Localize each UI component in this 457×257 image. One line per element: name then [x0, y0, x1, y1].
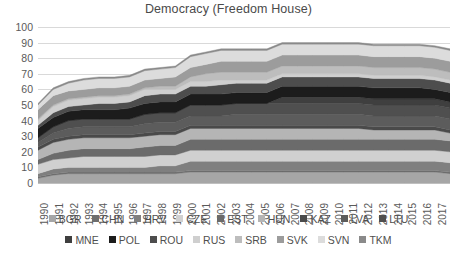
legend-item-rou[interactable]: ROU — [150, 234, 183, 246]
chart-legend: BGRCHNHRVCZEESTHUNKAZLVALTUMNEPOLROURUSS… — [0, 208, 457, 250]
legend-swatch-rou-icon — [150, 236, 157, 243]
stacked-area-series — [38, 27, 450, 183]
legend-label: HRV — [144, 213, 166, 225]
plot-area — [38, 27, 450, 183]
legend-swatch-rus-icon — [193, 236, 200, 243]
legend-label: SVK — [287, 234, 308, 246]
legend-item-hrv[interactable]: HRV — [134, 213, 166, 225]
legend-swatch-chn-icon — [92, 215, 99, 222]
legend-label: POL — [119, 234, 140, 246]
y-tick-label: 70 — [21, 69, 33, 79]
y-tick-label: 100 — [15, 22, 33, 32]
legend-item-pol[interactable]: POL — [109, 234, 140, 246]
legend-label: ROU — [160, 234, 183, 246]
legend-label: MNE — [75, 234, 98, 246]
legend-swatch-cze-icon — [176, 215, 183, 222]
legend-item-srb[interactable]: SRB — [235, 234, 267, 246]
legend-item-mne[interactable]: MNE — [65, 234, 98, 246]
legend-item-rus[interactable]: RUS — [193, 234, 225, 246]
legend-swatch-lva-icon — [341, 215, 348, 222]
legend-item-svn[interactable]: SVN — [318, 234, 350, 246]
legend-label: LVA — [351, 213, 369, 225]
y-tick-label: 40 — [21, 116, 33, 126]
legend-label: SVN — [328, 234, 350, 246]
legend-swatch-kaz-icon — [300, 215, 307, 222]
legend-item-lva[interactable]: LVA — [341, 213, 369, 225]
legend-label: HUN — [268, 213, 291, 225]
legend-label: KAZ — [310, 213, 330, 225]
legend-swatch-svk-icon — [277, 236, 284, 243]
legend-item-cze[interactable]: CZE — [176, 213, 207, 225]
y-tick-label: 10 — [21, 162, 33, 172]
legend-item-ltu[interactable]: LTU — [379, 213, 408, 225]
legend-swatch-hun-icon — [258, 215, 265, 222]
legend-swatch-pol-icon — [109, 236, 116, 243]
legend-swatch-hrv-icon — [134, 215, 141, 222]
legend-label: CZE — [186, 213, 207, 225]
legend-item-bgr[interactable]: BGR — [49, 213, 82, 225]
y-tick-label: 90 — [21, 38, 33, 48]
y-axis: 0102030405060708090100 — [0, 27, 33, 183]
legend-label: RUS — [203, 234, 225, 246]
chart-title: Democracy (Freedom House) — [0, 2, 457, 16]
legend-label: SRB — [245, 234, 267, 246]
legend-item-chn[interactable]: CHN — [92, 213, 125, 225]
legend-swatch-srb-icon — [235, 236, 242, 243]
legend-row-1: BGRCHNHRVCZEESTHUNKAZLVALTU — [0, 208, 457, 229]
legend-swatch-svn-icon — [318, 236, 325, 243]
y-tick-label: 30 — [21, 131, 33, 141]
legend-item-kaz[interactable]: KAZ — [300, 213, 330, 225]
y-tick-label: 80 — [21, 53, 33, 63]
legend-swatch-bgr-icon — [49, 215, 56, 222]
legend-swatch-mne-icon — [65, 236, 72, 243]
y-tick-label: 50 — [21, 100, 33, 110]
legend-swatch-ltu-icon — [379, 215, 386, 222]
legend-label: CHN — [102, 213, 125, 225]
x-axis-line — [38, 183, 450, 184]
y-tick-label: 0 — [27, 178, 33, 188]
legend-label: LTU — [389, 213, 408, 225]
legend-label: BGR — [59, 213, 82, 225]
y-tick-label: 20 — [21, 147, 33, 157]
chart-container: Democracy (Freedom House) 01020304050607… — [0, 0, 457, 257]
legend-row-2: MNEPOLROURUSSRBSVKSVNTKM — [0, 229, 457, 250]
legend-swatch-est-icon — [217, 215, 224, 222]
legend-item-svk[interactable]: SVK — [277, 234, 308, 246]
legend-label: TKM — [369, 234, 391, 246]
y-tick-label: 60 — [21, 84, 33, 94]
legend-item-hun[interactable]: HUN — [258, 213, 291, 225]
legend-label: EST — [227, 213, 247, 225]
legend-item-tkm[interactable]: TKM — [359, 234, 391, 246]
legend-item-est[interactable]: EST — [217, 213, 247, 225]
legend-swatch-tkm-icon — [359, 236, 366, 243]
